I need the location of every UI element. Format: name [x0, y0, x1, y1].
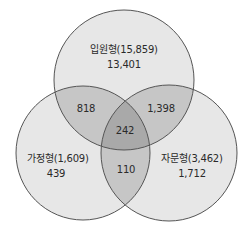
advisory-set-label: 자문형(3,462)	[161, 153, 222, 165]
inpatient-home-count: 818	[77, 103, 96, 115]
home-set-label: 가정형(1,609)	[27, 153, 88, 165]
home-advisory-count: 110	[117, 164, 136, 176]
inpatient-set-label: 입원형(15,859)	[90, 44, 158, 56]
venn-diagram	[0, 0, 248, 230]
advisory-only-count: 1,712	[178, 168, 206, 180]
inpatient-advisory-count: 1,398	[147, 103, 175, 115]
all-three-count: 242	[116, 125, 135, 137]
inpatient-only-count: 13,401	[107, 59, 141, 71]
home-only-count: 439	[47, 168, 66, 180]
